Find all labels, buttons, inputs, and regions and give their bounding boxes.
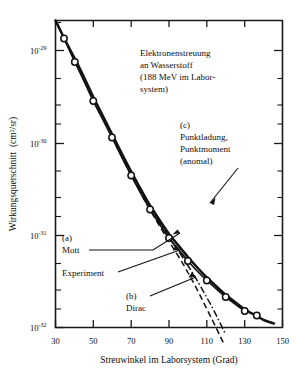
x-tick-label-110: 110 [201, 336, 213, 346]
data-point [61, 35, 67, 41]
cond-line-1: Elektronenstreuung [140, 48, 211, 58]
y-axis-title-main: Wirkungsquerschnitt [8, 152, 18, 232]
c-line-2: Punktladung, [180, 132, 228, 142]
x-tick-label-70: 70 [127, 336, 136, 346]
c-line-1: (c) [180, 120, 190, 130]
data-point [147, 206, 153, 212]
x-tick-label-30: 30 [51, 336, 60, 346]
y-tick-3-exp: -31 [39, 230, 47, 236]
data-point [128, 172, 134, 178]
x-tick-label-150: 150 [276, 336, 289, 346]
y-tick-1-base: 10 [30, 46, 39, 56]
data-point [254, 312, 260, 318]
y-tick-1-exp: -29 [39, 45, 47, 51]
data-point [109, 134, 115, 140]
y-axis-title: Wirkungsquerschnitt (cm²/sr) [8, 117, 19, 231]
cond-line-2: an Wasserstoff [140, 60, 193, 70]
y-tick-2-exp: -30 [39, 138, 47, 144]
y-tick-3-base: 10 [30, 231, 39, 241]
c-line-3: Punktmoment [180, 144, 231, 154]
data-point [185, 258, 191, 264]
experiment-label: Experiment [62, 268, 104, 278]
cond-line-3: (188 MeV im Labor- [140, 72, 215, 82]
b-line-1: (b) [126, 291, 137, 301]
x-tick-label-90: 90 [165, 336, 174, 346]
y-axis-title-unit: (cm²/sr) [8, 117, 19, 147]
y-tick-4-base: 10 [30, 323, 39, 333]
y-tick-4-exp: -32 [39, 322, 47, 328]
data-point [223, 294, 229, 300]
data-point [72, 59, 78, 65]
scattering-cross-section-figure: 10-29 10-30 10-31 10-32 30 50 70 90 110 … [0, 0, 297, 382]
x-tick-label-130: 130 [238, 336, 251, 346]
c-line-4: (anomal) [180, 156, 212, 166]
x-tick-label-50: 50 [89, 336, 98, 346]
b-line-2: Dirac [126, 303, 146, 313]
x-axis-title: Streuwinkel im Laborsystem (Grad) [100, 355, 237, 366]
cond-line-4: system) [140, 84, 168, 94]
y-tick-2-base: 10 [30, 139, 39, 149]
chart-svg: 10-29 10-30 10-31 10-32 30 50 70 90 110 … [0, 0, 297, 382]
data-point [90, 98, 96, 104]
a-line-1: (a) [62, 233, 72, 243]
a-line-2: Mott [62, 245, 80, 255]
data-point [204, 277, 210, 283]
data-point [242, 308, 248, 314]
